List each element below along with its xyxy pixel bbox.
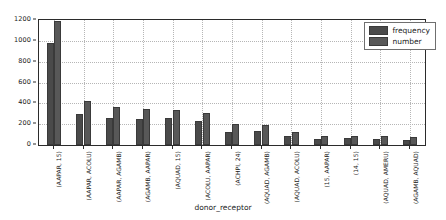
x-tick-label: (AAPAR, 15) [55,151,62,188]
x-tick-label: (AAPAR, ACOLU) [85,151,92,200]
bar-number [203,113,210,145]
bar-number [262,125,269,145]
x-tick-label: (AGAMB, AQUAD) [412,151,419,204]
x-tick-mark [53,146,54,149]
bar-frequency [76,114,83,145]
x-tick-mark [379,146,380,149]
y-tick-label: 400 [18,98,31,106]
y-tick-mark [33,81,36,82]
legend-label-frequency: frequency [392,27,430,35]
bar-number [113,107,120,145]
bar-frequency [403,140,410,145]
y-tick-label: 600 [18,78,31,86]
bar-number [54,21,61,145]
x-axis-title: donor_receptor [0,203,446,212]
bar-frequency [106,118,113,145]
x-tick-label: (15, AAPAR) [323,151,330,188]
y-tick-label: 1200 [14,15,31,23]
x-tick-label: (AAPAR, AGAMB) [115,151,122,202]
x-tick-label: (AQUAD, AGAMB) [263,151,270,204]
x-tick-mark [261,146,262,149]
x-tick-label: (AGAMB, AAPAR) [144,151,151,202]
legend-swatch-number [369,37,388,46]
x-tick-mark [320,146,321,149]
bar-frequency [373,139,380,145]
legend-label-number: number [392,38,421,46]
bar-number [351,136,358,145]
x-tick-label: (14, 15) [352,151,359,175]
bar-number [321,136,328,145]
y-tick-mark [33,102,36,103]
legend-entry-number: number [369,37,430,46]
x-tick-mark [112,146,113,149]
x-tick-label: (AQUAD, ACOLU) [293,151,300,202]
x-tick-mark [142,146,143,149]
bar-number [410,137,417,145]
y-tick-label: 200 [18,119,31,127]
legend-entry-frequency: frequency [369,26,430,35]
bar-chart-figure: 020040060080010001200 (AAPAR, 15)(AAPAR,… [0,0,446,220]
bar-number [84,101,91,145]
y-tick-mark [33,39,36,40]
x-tick-label: (AQUAD, AMERU) [382,151,389,204]
bar-frequency [225,132,232,145]
bar-number [173,110,180,145]
bar-frequency [254,131,261,145]
y-tick-label: 1000 [14,36,31,44]
y-tick-mark [33,60,36,61]
x-tick-mark [201,146,202,149]
x-axis: (AAPAR, 15)(AAPAR, ACOLU)(AAPAR, AGAMB)(… [38,146,426,202]
y-axis: 020040060080010001200 [0,19,36,146]
bar-number [143,109,150,145]
y-tick-label: 800 [18,57,31,65]
x-tick-mark [231,146,232,149]
x-tick-mark [350,146,351,149]
bar-frequency [344,138,351,145]
bar-frequency [47,43,54,145]
x-tick-label: (ACHPI, 24) [234,151,241,186]
x-tick-mark [290,146,291,149]
y-tick-mark [33,123,36,124]
bar-number [381,136,388,145]
gridline-vertical [291,20,292,145]
x-tick-label: (ACOLU, AAPAR) [204,151,211,200]
x-tick-mark [409,146,410,149]
bar-frequency [195,121,202,145]
y-tick-mark [33,144,36,145]
legend-swatch-frequency [369,26,388,35]
bar-number [232,124,239,145]
gridline-vertical [321,20,322,145]
bar-frequency [136,119,143,145]
bar-frequency [314,139,321,145]
x-tick-mark [83,146,84,149]
gridline-vertical [351,20,352,145]
bar-number [292,132,299,145]
chart-legend: frequency number [364,22,436,50]
x-tick-label: (AQUAD, 15) [174,151,181,190]
x-tick-mark [172,146,173,149]
y-tick-label: 0 [27,140,31,148]
bar-frequency [284,136,291,145]
bar-frequency [165,118,172,145]
y-tick-mark [33,19,36,20]
